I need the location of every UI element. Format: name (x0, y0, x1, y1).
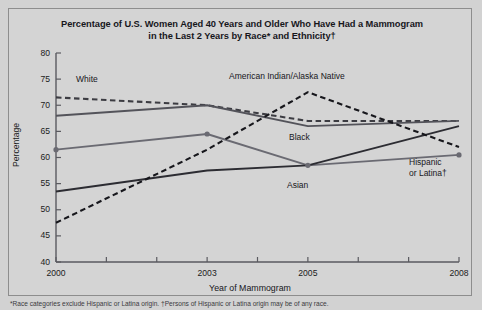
series-line-white (56, 97, 459, 121)
y-axis-title: Percentage (11, 105, 21, 185)
plot-area (0, 0, 482, 310)
y-tick-label: 40 (26, 257, 50, 267)
y-tick-label: 70 (26, 100, 50, 110)
y-tick-label: 45 (26, 230, 50, 240)
y-axis-ticks (56, 53, 61, 262)
chart-footnote: *Race categories exclude Hispanic or Lat… (10, 300, 329, 307)
chart-figure: Percentage of U.S. Women Aged 40 Years a… (0, 0, 482, 310)
x-tick-label: 2008 (439, 268, 479, 278)
series-marker (53, 147, 58, 152)
y-tick-label: 55 (26, 178, 50, 188)
series-line-black (56, 105, 459, 126)
series-marker (456, 152, 461, 157)
series-label-american-indian-alaska-native: American Indian/Alaska Native (229, 71, 345, 82)
series-line-hispanic-or-latina (56, 134, 459, 165)
series-label-white: White (76, 74, 98, 85)
series-label-black: Black (289, 132, 310, 143)
y-tick-label: 80 (26, 48, 50, 58)
series-label-hispanic-or-latina: Hispanic or Latina† (409, 157, 447, 178)
x-axis-title: Year of Mammogram (140, 283, 360, 293)
x-tick-label: 2000 (36, 268, 76, 278)
x-axis-ticks (56, 257, 459, 262)
y-tick-label: 60 (26, 152, 50, 162)
y-tick-label: 75 (26, 74, 50, 84)
series-label-hispanic-line-2: or Latina† (409, 168, 447, 179)
series-label-hispanic-line-1: Hispanic (409, 157, 447, 168)
axes-lines (56, 53, 459, 262)
series-marker (205, 131, 210, 136)
series-label-asian: Asian (287, 180, 308, 191)
y-tick-label: 65 (26, 126, 50, 136)
y-tick-label: 50 (26, 204, 50, 214)
x-tick-label: 2003 (187, 268, 227, 278)
x-tick-label: 2005 (288, 268, 328, 278)
series-lines (56, 92, 459, 223)
series-marker (305, 163, 310, 168)
